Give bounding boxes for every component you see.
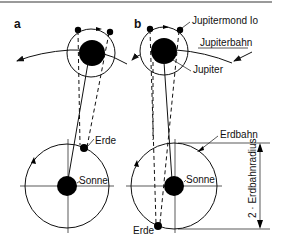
panel-label-b: b — [134, 17, 141, 31]
earth-label-a: Erde — [95, 135, 117, 146]
earth-a — [80, 144, 88, 152]
jupiter-a — [79, 40, 105, 66]
io-position-2-a — [107, 29, 113, 35]
jupiter-orbit-b — [176, 50, 232, 63]
light-path-a-1 — [78, 31, 80, 145]
sun-label-b: Sonne — [186, 174, 215, 185]
io-label: Jupitermond Io — [192, 15, 259, 26]
io-leader — [182, 22, 190, 28]
jupiter-label: Jupiter — [193, 64, 224, 75]
jupiter-orbit-arrow-b — [234, 52, 252, 61]
panel-b: Jupitermond Io Jupiterbahn Jupiter Sonne… — [126, 15, 270, 236]
sun-b — [164, 176, 184, 196]
earth-b — [154, 222, 162, 230]
jupiter-orbit-a — [17, 50, 127, 64]
dimension-arrow-bottom — [257, 220, 263, 229]
jupiter-orbit-b-left — [132, 55, 140, 60]
sun-jupiter-line-a — [68, 63, 88, 180]
sun-jupiter-line-b — [164, 62, 172, 180]
earth-orbit-arrow-b — [134, 160, 139, 167]
dimension-label: 2 · Erdbahnradius — [247, 139, 258, 219]
sun-a — [57, 176, 77, 196]
roemer-diagram: a b Erde Sonne — [0, 0, 281, 245]
earth-leader-a — [88, 139, 94, 146]
jupiter-orbit-label: Jupiterbahn — [200, 37, 252, 48]
panel-a: Erde Sonne — [17, 27, 127, 233]
io-orbit-arrow-b — [163, 25, 169, 29]
sun-label-a: Sonne — [79, 175, 108, 186]
earth-label-b: Erde — [133, 225, 155, 236]
earth-orbit-label: Erdbahn — [220, 129, 258, 140]
earth-orbit-leader-arrow — [197, 146, 204, 152]
panel-label-a: a — [14, 17, 21, 31]
